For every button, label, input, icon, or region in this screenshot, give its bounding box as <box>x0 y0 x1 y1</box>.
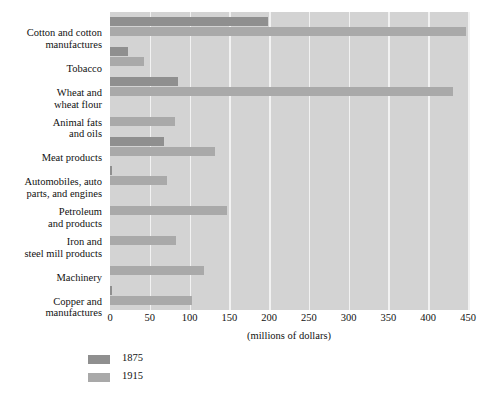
bar-1875-9 <box>110 286 112 295</box>
category-label-line: steel mill products <box>0 248 102 260</box>
legend-label-1915: 1915 <box>122 370 143 381</box>
x-tick-label: 400 <box>408 312 448 323</box>
chart-legend: 18751915 <box>88 352 268 388</box>
bar-1915-5 <box>110 176 167 185</box>
category-label-line: Machinery <box>0 272 102 284</box>
category-label-1: Tobacco <box>0 63 102 75</box>
category-label-line: Meat products <box>0 152 102 164</box>
x-tick-label: 450 <box>448 312 488 323</box>
category-label-line: manufactures <box>0 39 102 51</box>
gridline <box>349 12 351 310</box>
legend-swatch-1875 <box>88 355 110 364</box>
bar-1915-2 <box>110 87 453 96</box>
bar-1915-1 <box>110 57 144 66</box>
category-label-line: and products <box>0 218 102 230</box>
bar-1875-1 <box>110 47 128 56</box>
bar-chart: Cotton and cottonmanufacturesTobaccoWhea… <box>0 0 498 394</box>
category-label-line: and oils <box>0 128 102 140</box>
gridline <box>229 12 231 310</box>
category-label-3: Animal fatsand oils <box>0 117 102 140</box>
category-label-line: Copper and <box>0 296 102 308</box>
bar-1915-0 <box>110 27 466 36</box>
legend-item-1875[interactable]: 1875 <box>88 352 268 370</box>
category-label-line: wheat flour <box>0 99 102 111</box>
category-axis-labels: Cotton and cottonmanufacturesTobaccoWhea… <box>0 18 106 304</box>
plot-area <box>110 12 468 310</box>
category-label-line: Wheat and <box>0 87 102 99</box>
category-label-5: Automobiles, autoparts, and engines <box>0 176 102 199</box>
category-label-line: Cotton and cotton <box>0 27 102 39</box>
x-axis-ticks: 050100150200250300350400450 <box>0 312 498 328</box>
bar-1875-0 <box>110 17 268 26</box>
category-label-2: Wheat andwheat flour <box>0 87 102 110</box>
category-label-8: Machinery <box>0 272 102 284</box>
x-tick-label: 0 <box>90 312 130 323</box>
category-label-0: Cotton and cottonmanufactures <box>0 27 102 50</box>
x-axis-title: (millions of dollars) <box>110 330 468 341</box>
bar-1915-6 <box>110 206 227 215</box>
x-tick-label: 50 <box>130 312 170 323</box>
gridline <box>428 12 430 310</box>
bar-1915-3 <box>110 117 175 126</box>
category-label-line: Iron and <box>0 236 102 248</box>
gridline <box>388 12 390 310</box>
legend-swatch-1915 <box>88 373 110 382</box>
bar-1915-9 <box>110 296 192 305</box>
category-label-line: Automobiles, auto <box>0 176 102 188</box>
category-label-line: Petroleum <box>0 206 102 218</box>
gridline <box>468 12 470 310</box>
gridline <box>309 12 311 310</box>
bar-1915-8 <box>110 266 204 275</box>
x-tick-label: 300 <box>329 312 369 323</box>
bar-1875-4 <box>110 137 164 146</box>
category-label-7: Iron andsteel mill products <box>0 236 102 259</box>
x-tick-label: 100 <box>170 312 210 323</box>
bar-1915-7 <box>110 236 176 245</box>
category-label-line: Tobacco <box>0 63 102 75</box>
bar-1875-5 <box>110 166 112 175</box>
legend-label-1875: 1875 <box>122 352 143 363</box>
x-tick-label: 250 <box>289 312 329 323</box>
bar-1875-2 <box>110 77 178 86</box>
category-label-line: parts, and engines <box>0 188 102 200</box>
x-tick-label: 150 <box>209 312 249 323</box>
category-label-line: Animal fats <box>0 117 102 129</box>
category-label-4: Meat products <box>0 152 102 164</box>
category-label-6: Petroleumand products <box>0 206 102 229</box>
x-tick-label: 200 <box>249 312 289 323</box>
legend-item-1915[interactable]: 1915 <box>88 370 268 388</box>
bar-1915-4 <box>110 147 215 156</box>
x-tick-label: 350 <box>368 312 408 323</box>
gridline <box>269 12 271 310</box>
